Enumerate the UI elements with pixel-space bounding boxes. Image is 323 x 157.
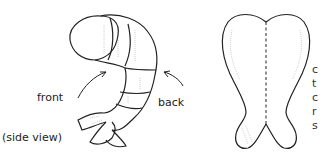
front-arrow bbox=[78, 72, 106, 98]
shrimp-butterflied-view bbox=[222, 15, 309, 149]
shrimp-side-view bbox=[70, 15, 157, 147]
side-view-label: (side view) bbox=[2, 132, 62, 143]
truncated-text-line-5: s bbox=[312, 120, 318, 131]
truncated-text-line-3: c bbox=[312, 92, 318, 103]
truncated-text-line-2: t bbox=[312, 78, 316, 89]
back-label: back bbox=[158, 97, 184, 108]
truncated-text-line-1: c bbox=[312, 64, 318, 75]
back-arrow bbox=[164, 71, 183, 86]
front-label: front bbox=[37, 92, 63, 103]
truncated-text-line-4: r bbox=[312, 106, 317, 117]
